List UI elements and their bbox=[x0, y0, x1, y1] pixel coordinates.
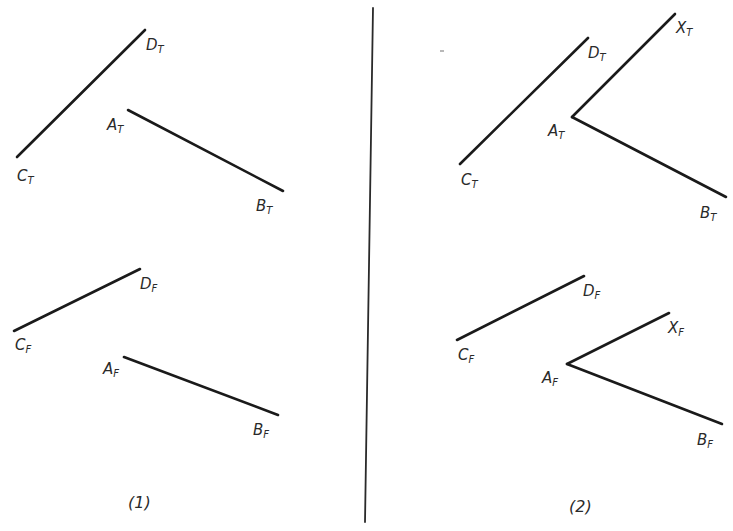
label-d-top: DT bbox=[146, 36, 165, 55]
panel-2-top-view: CT DT AT XT BT bbox=[460, 14, 726, 223]
label-d-front: DF bbox=[140, 275, 158, 294]
label-b-top: BT bbox=[700, 204, 717, 223]
line-cd-front bbox=[14, 269, 140, 331]
label-c-front: CF bbox=[15, 336, 31, 355]
projection-diagram: CT DT AT BT CF DF AF bbox=[0, 0, 733, 531]
line-ab-front bbox=[124, 357, 278, 415]
label-b-top: BT bbox=[256, 197, 273, 216]
line-cd-front bbox=[457, 276, 584, 340]
label-x-front: XF bbox=[667, 319, 684, 338]
panel-1-front-view: CF DF AF BF bbox=[14, 269, 278, 440]
label-a-top: AT bbox=[106, 116, 124, 135]
label-b-front: BF bbox=[253, 421, 269, 440]
label-b-front: BF bbox=[697, 431, 713, 450]
label-c-front: CF bbox=[458, 346, 474, 365]
label-x-top: XT bbox=[675, 19, 693, 38]
label-c-top: CT bbox=[17, 167, 34, 186]
panel-1: CT DT AT BT CF DF AF bbox=[14, 30, 283, 512]
line-ab-top bbox=[128, 110, 283, 191]
label-a-front: AF bbox=[102, 360, 119, 379]
line-ab-front bbox=[567, 364, 722, 424]
label-a-front: AF bbox=[541, 369, 558, 388]
line-ax-front bbox=[567, 313, 669, 364]
panel-divider bbox=[365, 8, 373, 522]
label-a-top: AT bbox=[547, 122, 565, 141]
panel-2: CT DT AT XT BT CF DF bbox=[457, 14, 726, 516]
line-ab-top bbox=[572, 117, 726, 197]
paper-speck bbox=[440, 50, 444, 52]
panel-1-caption: (1) bbox=[128, 493, 151, 512]
line-cd-top bbox=[460, 38, 588, 164]
panel-2-caption: (2) bbox=[569, 497, 592, 516]
label-d-front: DF bbox=[583, 282, 601, 301]
line-cd-top bbox=[17, 30, 145, 157]
label-c-top: CT bbox=[461, 171, 478, 190]
line-ax-top bbox=[572, 14, 675, 117]
panel-2-front-view: CF DF AF XF BF bbox=[457, 276, 722, 450]
panel-1-top-view: CT DT AT BT bbox=[17, 30, 283, 216]
label-d-top: DT bbox=[588, 44, 607, 63]
